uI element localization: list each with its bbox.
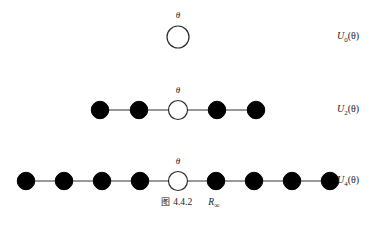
theta-label-u2: θ xyxy=(168,86,188,95)
graph-node-filled xyxy=(130,101,147,118)
graph-node-open-center xyxy=(169,172,188,191)
figure-container: θ θ θ U0(θ) U2(θ) U4(θ) 图4.4.2R∞ xyxy=(0,0,381,225)
graph-node-filled xyxy=(131,172,148,189)
graph-node-filled xyxy=(55,172,72,189)
theta-label-u4: θ xyxy=(168,157,188,166)
graph-node-filled xyxy=(245,172,262,189)
graph-node-filled xyxy=(207,172,224,189)
row-label-u2: U2(θ) xyxy=(337,104,359,117)
graph-node-open-center xyxy=(169,101,188,120)
row-label-u2-arg: (θ) xyxy=(348,103,359,114)
row-label-u0: U0(θ) xyxy=(337,31,359,44)
edges-layer xyxy=(26,110,330,181)
graph-node-filled xyxy=(247,101,264,118)
figure-caption: 图4.4.2R∞ xyxy=(0,198,381,210)
caption-prefix: 图 xyxy=(161,197,170,207)
graph-node-filled xyxy=(91,101,108,118)
row-label-u0-arg: (θ) xyxy=(348,30,359,41)
row-label-u4: U4(θ) xyxy=(337,175,359,188)
graph-canvas xyxy=(0,0,381,225)
theta-label-u0: θ xyxy=(168,11,188,20)
caption-number: 4.4.2 xyxy=(173,197,192,207)
caption-symbol-subscript: ∞ xyxy=(214,201,220,210)
graph-node-filled xyxy=(208,101,225,118)
graph-node-filled xyxy=(283,172,300,189)
row-label-u4-arg: (θ) xyxy=(348,174,359,185)
graph-node-filled xyxy=(17,172,34,189)
graph-node-open-center xyxy=(167,26,189,48)
graph-node-filled xyxy=(93,172,110,189)
